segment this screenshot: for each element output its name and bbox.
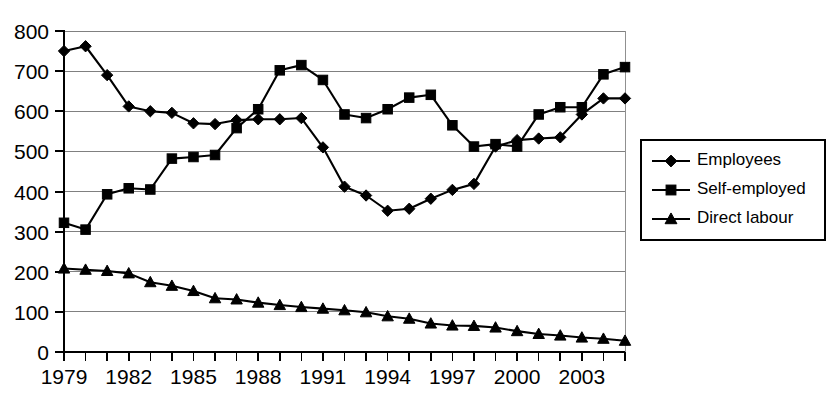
data-point-marker (447, 184, 458, 195)
data-point-marker (232, 123, 242, 133)
legend-item-label: Direct labour (697, 208, 794, 227)
x-tick-labels: 197919821985198819911994199720002003 (41, 365, 606, 388)
y-axis (55, 30, 64, 352)
data-point-marker (599, 70, 609, 80)
data-point-marker (491, 139, 501, 149)
y-tick-label: 300 (14, 221, 49, 244)
x-axis (64, 352, 625, 361)
data-point-marker (469, 142, 479, 152)
legend-item-label: Self-employed (697, 179, 806, 198)
data-point-marker (620, 62, 630, 72)
data-point-marker (145, 106, 156, 117)
x-tick-label: 2000 (494, 365, 541, 388)
series-group (58, 41, 630, 346)
data-point-marker (318, 75, 328, 85)
legend-item-label: Employees (697, 150, 781, 169)
data-point-marker (404, 93, 414, 103)
x-tick-label: 1994 (364, 365, 411, 388)
data-point-marker (340, 110, 350, 120)
data-point-marker (577, 102, 587, 112)
y-tick-label: 100 (14, 301, 49, 324)
data-point-marker (189, 152, 199, 162)
plot-gridlines (64, 31, 625, 312)
data-point-marker (81, 225, 91, 235)
data-point-marker (59, 218, 69, 228)
data-point-marker (426, 90, 436, 100)
data-point-marker (404, 203, 415, 214)
data-point-marker (297, 60, 307, 70)
data-point-marker (188, 118, 199, 129)
data-point-marker (533, 133, 544, 144)
data-point-marker (274, 114, 285, 125)
x-tick-label: 1988 (235, 365, 282, 388)
x-tick-label: 1997 (429, 365, 476, 388)
data-point-marker (275, 66, 285, 76)
series-line (64, 65, 625, 230)
data-point-marker (339, 181, 350, 192)
data-point-marker (361, 113, 371, 123)
data-point-marker (253, 114, 264, 125)
data-point-marker (534, 110, 544, 120)
data-point-marker (210, 150, 220, 160)
data-point-marker (167, 154, 177, 164)
x-tick-label: 1991 (300, 365, 347, 388)
series-direct-labour (58, 263, 630, 346)
y-tick-label: 400 (14, 181, 49, 204)
data-point-marker (383, 104, 393, 114)
data-point-marker (58, 45, 69, 56)
x-tick-label: 1979 (41, 365, 88, 388)
data-point-marker (209, 118, 220, 129)
legend: EmployeesSelf-employedDirect labour (641, 140, 825, 240)
data-point-marker (619, 93, 630, 104)
y-tick-label: 800 (14, 20, 49, 43)
x-tick-label: 2003 (558, 365, 605, 388)
y-tick-label: 600 (14, 100, 49, 123)
data-point-marker (425, 193, 436, 204)
y-tick-label: 200 (14, 261, 49, 284)
chart-container: 0100200300400500600700800 19791982198519… (0, 0, 831, 414)
data-point-marker (468, 178, 479, 189)
data-point-marker (253, 104, 263, 114)
data-point-marker (124, 184, 134, 194)
data-point-marker (556, 102, 566, 112)
line-chart: 0100200300400500600700800 19791982198519… (0, 0, 831, 414)
data-point-marker (146, 185, 156, 195)
data-point-marker (512, 142, 522, 152)
y-tick-labels: 0100200300400500600700800 (14, 20, 49, 364)
data-point-marker (166, 107, 177, 118)
data-point-marker (666, 185, 676, 195)
data-point-marker (448, 121, 458, 131)
y-tick-label: 700 (14, 60, 49, 83)
y-tick-label: 500 (14, 140, 49, 163)
data-point-marker (102, 190, 112, 200)
x-tick-label: 1985 (170, 365, 217, 388)
y-tick-label: 0 (37, 341, 49, 364)
x-tick-label: 1982 (105, 365, 152, 388)
series-self-employed (59, 60, 630, 234)
